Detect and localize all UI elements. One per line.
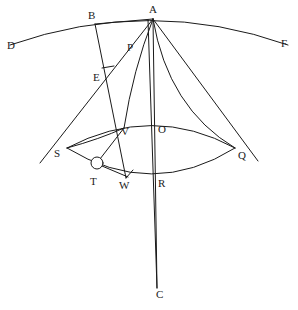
point-label-P: P xyxy=(127,42,133,53)
arc-SOQ-upper xyxy=(67,126,235,149)
diagram-canvas xyxy=(0,0,298,310)
point-label-W: W xyxy=(119,180,129,191)
line-A-Q-extended xyxy=(153,19,258,161)
geometry-diagram: D B A F P E V O S Q T W R C xyxy=(0,0,298,310)
line-B-E-W xyxy=(95,24,126,178)
curve-V-to-S xyxy=(67,128,124,148)
point-label-D: D xyxy=(7,40,15,51)
point-label-F: F xyxy=(281,38,287,49)
point-label-C: C xyxy=(156,289,163,300)
line-A-V-S-extended xyxy=(40,19,153,163)
point-label-E: E xyxy=(93,72,100,83)
point-label-T: T xyxy=(90,176,97,187)
line-A-W-C xyxy=(148,20,157,288)
point-label-A: A xyxy=(149,4,157,15)
point-label-S: S xyxy=(54,148,60,159)
line-BA xyxy=(95,19,153,24)
point-label-O: O xyxy=(158,124,166,135)
line-A-O-R-C xyxy=(153,19,157,288)
point-label-Q: Q xyxy=(238,150,246,161)
line-W-arc xyxy=(126,170,133,178)
point-label-B: B xyxy=(88,10,95,21)
circle-marker-T xyxy=(91,157,103,169)
point-label-R: R xyxy=(158,178,165,189)
point-label-V: V xyxy=(121,126,129,137)
